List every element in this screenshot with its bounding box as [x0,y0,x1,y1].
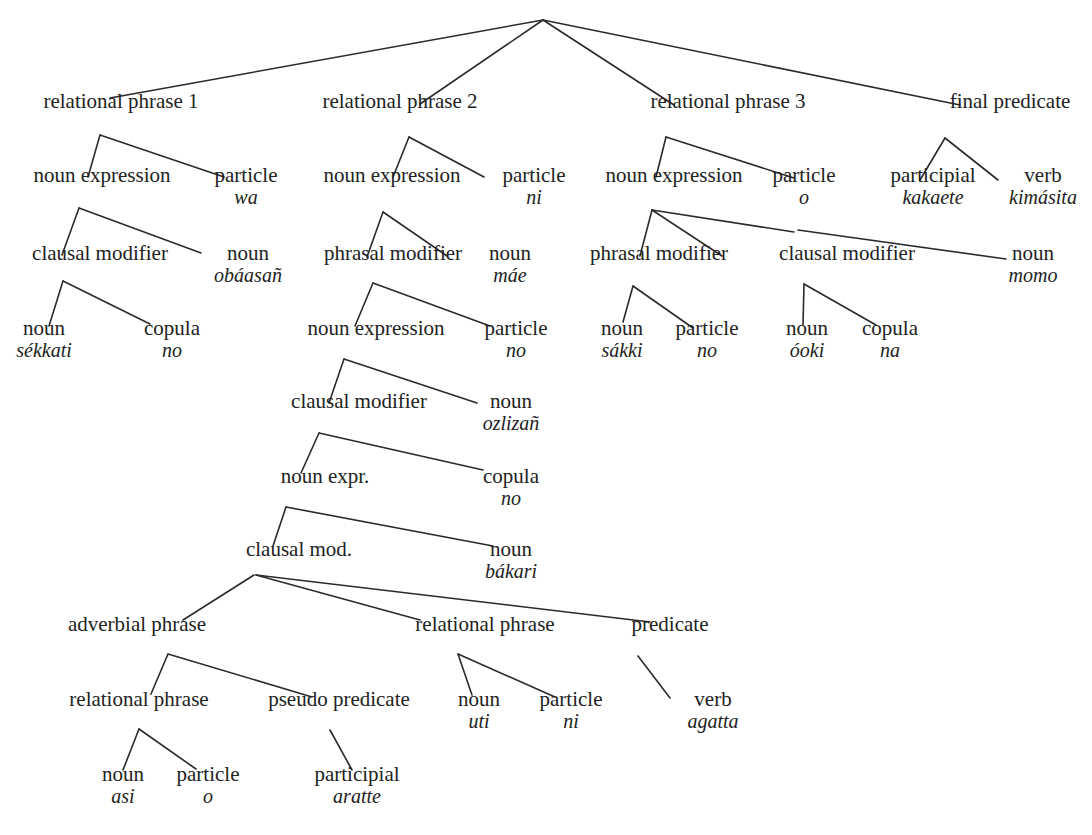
node-word-label: sékkati [16,338,72,362]
node-category-label: relational phrase [415,612,554,636]
tree-edge [638,656,670,698]
node-word-label: momo [1009,263,1058,287]
node-category-label: copula [483,464,539,488]
node-category-label: verb [687,687,738,711]
tree-node-pm2: phrasal modifier [324,241,462,265]
node-word-label: aratte [314,784,399,808]
tree-node-ptc1: participialkakaete [890,163,975,209]
tree-node-rpy: relational phrase [69,687,208,711]
node-category-label: relational phrase 3 [650,89,805,113]
node-category-label: particle [773,163,836,187]
tree-node-rpx: relational phrase [415,612,554,636]
node-category-label: particle [177,762,240,786]
node-category-label: noun [16,316,72,340]
node-category-label: phrasal modifier [590,241,728,265]
node-word-label: ozlizañ [483,411,540,435]
tree-node-pa1: particlewa [215,163,278,209]
tree-node-ne4: noun expression [307,316,444,340]
node-word-label: ni [540,709,603,733]
node-category-label: predicate [632,612,709,636]
tree-node-psp: pseudo predicate [268,687,410,711]
tree-node-n1: nounobáasañ [214,241,282,287]
node-category-label: relational phrase 1 [43,89,198,113]
tree-node-pm3: phrasal modifier [590,241,728,265]
tree-node-adv: adverbial phrase [68,612,206,636]
node-word-label: o [773,185,836,209]
tree-node-n5: nounsákki [601,316,643,362]
node-word-label: óoki [786,338,828,362]
tree-node-rp3: relational phrase 3 [650,89,805,113]
tree-edge [256,575,420,620]
node-word-label: kimásita [1009,185,1077,209]
tree-node-n9: nounuti [458,687,500,733]
tree-node-n2: nounmáe [489,241,531,287]
tree-edge [63,281,150,324]
tree-node-cop3: copulano [483,464,539,510]
tree-node-n7: nounozlizañ [483,389,540,435]
tree-edge [110,20,543,98]
node-word-label: no [485,338,548,362]
node-category-label: noun [458,687,500,711]
node-word-label: agatta [687,709,738,733]
node-word-label: sákki [601,338,643,362]
tree-node-pa5: particleno [676,316,739,362]
node-word-label: máe [489,263,531,287]
tree-node-ne3: noun expression [605,163,742,187]
node-category-label: noun [786,316,828,340]
node-word-label: na [862,338,918,362]
node-category-label: noun expression [33,163,170,187]
node-word-label: bákari [485,559,537,583]
node-category-label: copula [862,316,918,340]
node-category-label: clausal mod. [246,537,352,561]
tree-node-pa4: particleno [485,316,548,362]
node-category-label: participial [314,762,399,786]
node-category-label: noun [102,762,144,786]
tree-node-pa6: particleni [540,687,603,733]
tree-node-cm4: clausal modifier [291,389,427,413]
tree-edge [652,210,794,232]
node-category-label: noun expression [605,163,742,187]
node-category-label: adverbial phrase [68,612,206,636]
node-category-label: particle [676,316,739,340]
node-category-label: noun [214,241,282,265]
node-category-label: clausal modifier [779,241,915,265]
node-word-label: asi [102,784,144,808]
node-category-label: clausal modifier [291,389,427,413]
node-category-label: pseudo predicate [268,687,410,711]
node-category-label: noun [489,241,531,265]
node-word-label: no [676,338,739,362]
node-category-label: particle [540,687,603,711]
node-category-label: particle [503,163,566,187]
tree-node-pa7: particleo [177,762,240,808]
tree-node-vb2: verbagatta [687,687,738,733]
node-category-label: clausal modifier [32,241,168,265]
node-word-label: kakaete [890,185,975,209]
tree-node-rp1: relational phrase 1 [43,89,198,113]
tree-node-ne2: noun expression [323,163,460,187]
node-category-label: noun [1009,241,1058,265]
tree-node-vb1: verbkimásita [1009,163,1077,209]
node-category-label: participial [890,163,975,187]
tree-node-rp2: relational phrase 2 [322,89,477,113]
node-category-label: noun expression [323,163,460,187]
node-word-label: ni [503,185,566,209]
tree-node-cmd: clausal mod. [246,537,352,561]
node-word-label: o [177,784,240,808]
node-category-label: noun expression [307,316,444,340]
node-category-label: noun expr. [281,464,370,488]
node-category-label: particle [215,163,278,187]
node-category-label: noun [601,316,643,340]
tree-node-n8: nounbákari [485,537,537,583]
node-word-label: no [144,338,200,362]
tree-node-n4: nounsékkati [16,316,72,362]
tree-node-cop1: copulano [144,316,200,362]
node-word-label: obáasañ [214,263,282,287]
tree-node-nex: noun expr. [281,464,370,488]
node-category-label: final predicate [950,89,1071,113]
node-category-label: noun [485,537,537,561]
node-category-label: phrasal modifier [324,241,462,265]
tree-node-fp: final predicate [950,89,1071,113]
node-category-label: verb [1009,163,1077,187]
node-category-label: relational phrase [69,687,208,711]
tree-node-pred: predicate [632,612,709,636]
